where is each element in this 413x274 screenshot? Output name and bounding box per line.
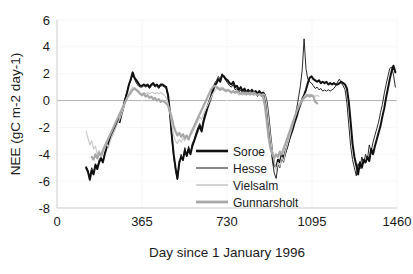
y-tick-label: 6 <box>43 13 50 28</box>
legend-label-gunnarsholt: Gunnarsholt <box>233 196 299 210</box>
y-axis-title: NEE (gC m-2 day-1) <box>8 53 23 175</box>
x-tick-label: 1460 <box>383 214 412 229</box>
y-tick-label: -2 <box>38 120 50 135</box>
legend-label-vielsalm: Vielsalm <box>233 179 278 193</box>
y-tick-label: 0 <box>43 93 50 108</box>
x-axis-title: Day since 1 January 1996 <box>149 245 305 260</box>
y-tick-labels: 6420-2-4-6-8 <box>38 13 50 216</box>
x-tick-label: 730 <box>216 214 238 229</box>
x-tick-label: 0 <box>53 214 60 229</box>
y-tick-label: 4 <box>43 39 50 54</box>
y-tick-label: -4 <box>38 147 50 162</box>
figure-caption-partial <box>8 266 406 274</box>
figure-container: 6420-2-4-6-8 036573010951460 SoroeHesseV… <box>0 0 413 274</box>
legend-label-soroe: Soroe <box>233 145 265 159</box>
legend-label-hesse: Hesse <box>233 162 267 176</box>
x-tick-label: 1095 <box>298 214 327 229</box>
y-tick-label: -8 <box>38 201 50 216</box>
y-tick-label: 2 <box>43 66 50 81</box>
nee-time-series-chart: 6420-2-4-6-8 036573010951460 SoroeHesseV… <box>0 0 413 274</box>
y-tick-label: -6 <box>38 174 50 189</box>
x-tick-label: 365 <box>131 214 153 229</box>
x-tick-labels: 036573010951460 <box>53 214 411 229</box>
